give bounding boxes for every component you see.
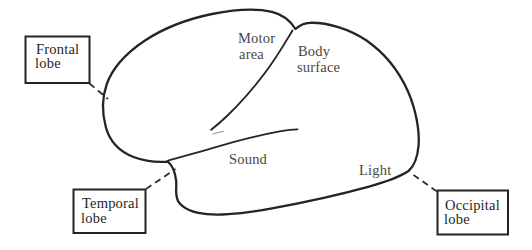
temporal-lobe-label-line2: lobe — [81, 210, 107, 226]
body-surface-label-line2: surface — [297, 59, 340, 75]
brain-diagram: Frontal lobe Temporal lobe Occipital lob… — [0, 0, 532, 250]
sulcus-tick-mark — [213, 131, 225, 134]
body-surface-label-line1: Body — [298, 43, 331, 59]
temporal-lobe-label-line1: Temporal — [82, 195, 139, 211]
light-area-label: Light — [359, 162, 391, 178]
frontal-lobe-label-line2: lobe — [35, 55, 61, 71]
temporal-lobe-leader-line — [146, 169, 176, 189]
motor-area-label-line2: area — [239, 46, 264, 62]
occipital-lobe-leader-line — [414, 175, 438, 192]
brain-diagram-canvas: Frontal lobe Temporal lobe Occipital lob… — [0, 0, 532, 250]
occipital-lobe-label-line2: lobe — [444, 211, 470, 227]
motor-area-label-line1: Motor — [238, 30, 275, 46]
sound-area-label: Sound — [229, 151, 268, 167]
